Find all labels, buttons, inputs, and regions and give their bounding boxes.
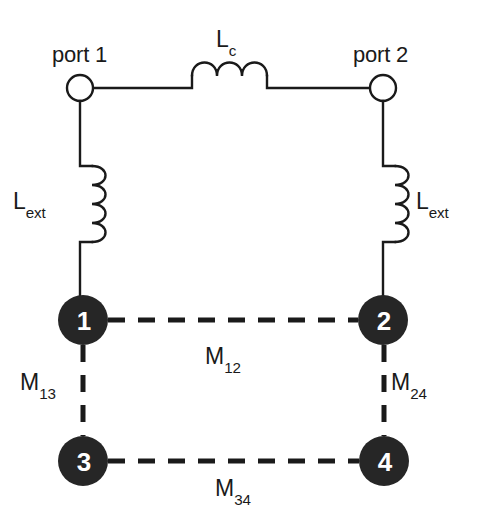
coupling-label-m34-subscript: 34: [234, 491, 250, 508]
resonator-node-1-number: 1: [77, 308, 91, 334]
coupling-inductor-label: Lc: [216, 28, 236, 55]
resonator-node-3-number: 3: [77, 449, 91, 475]
circuit-schematic-canvas: [0, 0, 480, 516]
wire-port1-to-coupling-inductor: [93, 76, 192, 88]
coupling-inductor-label-base: L: [216, 26, 229, 52]
coupling-label-m13-subscript: 13: [39, 385, 55, 402]
lext-right-label-base: L: [416, 188, 429, 214]
lext-left-label-base: L: [13, 188, 26, 214]
coupling-label-m24: M24: [391, 371, 427, 398]
lext-left-inductor-coil: [92, 166, 106, 242]
coupling-label-m13: M13: [20, 371, 56, 398]
wire-port2-to-lext-right: [383, 101, 395, 166]
lext-left-label-subscript: ext: [26, 204, 46, 221]
coupling-label-m34: M34: [215, 477, 251, 504]
coupling-label-m12-subscript: 12: [224, 359, 240, 376]
coupling-label-m13-base: M: [20, 369, 39, 395]
lext-right-label-subscript: ext: [429, 204, 449, 221]
lext-left-label: Lext: [13, 190, 45, 217]
coupling-inductor-coil: [192, 63, 267, 77]
coupling-inductor-label-subscript: c: [229, 42, 236, 59]
coupling-label-m12-base: M: [205, 343, 224, 369]
wire-lext-left-to-node1: [80, 242, 92, 296]
coupling-label-m34-base: M: [215, 475, 234, 501]
port1-terminal-circle: [67, 75, 93, 101]
resonator-node-4-number: 4: [378, 449, 392, 475]
wire-coupling-inductor-to-port2: [267, 76, 370, 88]
wire-port1-to-lext-left: [80, 101, 92, 166]
coupling-label-m24-base: M: [391, 369, 410, 395]
coupling-label-m24-subscript: 24: [410, 385, 426, 402]
circuit-diagram: port 1 port 2 Lc Lext Lext M12 M13 M24 M…: [0, 0, 480, 516]
port2-label: port 2: [353, 44, 408, 66]
coupling-label-m12: M12: [205, 345, 241, 372]
lext-right-inductor-coil: [395, 166, 409, 242]
port2-terminal-circle: [370, 75, 396, 101]
resonator-node-2-number: 2: [377, 308, 391, 334]
lext-right-label: Lext: [416, 190, 448, 217]
port1-label: port 1: [52, 44, 107, 66]
wire-lext-right-to-node2: [383, 242, 395, 296]
